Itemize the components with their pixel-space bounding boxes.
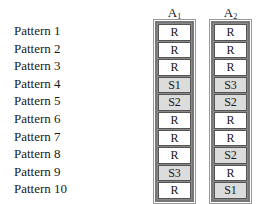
cell: R: [158, 112, 191, 129]
pattern-label: Pattern 6: [14, 110, 67, 128]
cell: S3: [158, 165, 191, 182]
pattern-labels: Pattern 1 Pattern 2 Pattern 3 Pattern 4 …: [14, 22, 67, 198]
cell: R: [214, 112, 247, 129]
cell: R: [158, 24, 191, 41]
cell: R: [158, 182, 191, 199]
cell: S2: [214, 147, 247, 164]
cell: R: [158, 147, 191, 164]
cell: R: [214, 24, 247, 41]
cell: R: [158, 130, 191, 147]
cell: R: [214, 130, 247, 147]
cell: R: [214, 59, 247, 76]
column-header-a1: A1: [155, 5, 194, 21]
cell: R: [158, 42, 191, 59]
pattern-label: Pattern 5: [14, 92, 67, 110]
column-header-a2: A2: [211, 5, 250, 21]
cell: R: [214, 42, 247, 59]
cell: R: [158, 59, 191, 76]
pattern-label: Pattern 4: [14, 75, 67, 93]
pattern-label: Pattern 10: [14, 180, 67, 198]
cell: R: [214, 165, 247, 182]
cell: S1: [158, 77, 191, 94]
cell: S3: [214, 77, 247, 94]
cell: S1: [214, 182, 247, 199]
pattern-label: Pattern 2: [14, 40, 67, 58]
pattern-label: Pattern 3: [14, 57, 67, 75]
cell: S2: [158, 94, 191, 111]
pattern-label: Pattern 9: [14, 163, 67, 181]
column-stack-a1: R R R S1 S2 R R R S3 R: [155, 21, 194, 202]
pattern-label: Pattern 8: [14, 145, 67, 163]
column-stack-a2: R R R S3 S2 R R S2 R S1: [211, 21, 250, 202]
pattern-label: Pattern 1: [14, 22, 67, 40]
column-a2: A2 R R R S3 S2 R R S2 R S1: [211, 5, 250, 202]
pattern-label: Pattern 7: [14, 128, 67, 146]
column-a1: A1 R R R S1 S2 R R R S3 R: [155, 5, 194, 202]
cell: S2: [214, 94, 247, 111]
